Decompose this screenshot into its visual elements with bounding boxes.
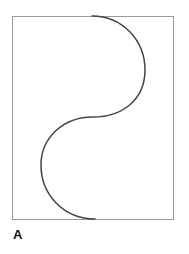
s-curve-path bbox=[41, 16, 145, 219]
frame-rectangle bbox=[13, 17, 174, 220]
figure-panel: A bbox=[0, 0, 189, 254]
s-curve-diagram bbox=[0, 0, 189, 254]
panel-label: A bbox=[13, 228, 22, 242]
